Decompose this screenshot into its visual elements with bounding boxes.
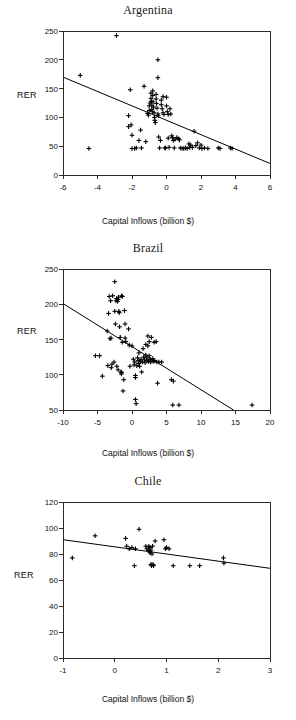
data-point-marker — [138, 128, 143, 133]
data-point-marker — [139, 370, 144, 375]
x-axis-label-chile: Capital Inflows (billion $) — [0, 694, 296, 704]
data-point-marker — [164, 104, 169, 109]
chart-panel-chile: Chile RER -10123020406080100120 Capital … — [0, 472, 296, 720]
x-tick-label: 10 — [197, 418, 206, 427]
data-point-marker — [123, 322, 128, 327]
data-point-marker — [93, 353, 98, 358]
data-point-marker — [170, 403, 175, 408]
y-tick-label: 150 — [45, 336, 59, 345]
regression-line — [63, 77, 270, 163]
data-point-marker — [126, 113, 131, 118]
data-point-marker — [165, 109, 170, 114]
data-point-marker — [134, 401, 139, 406]
data-point-marker — [117, 325, 122, 330]
data-point-marker — [132, 563, 137, 568]
x-tick-label: 0 — [164, 183, 169, 192]
scatter-plot-brazil: -10-50510152050100150200250 — [0, 240, 296, 472]
y-tick-label: 0 — [54, 171, 59, 180]
data-point-marker — [171, 563, 176, 568]
data-point-marker — [221, 556, 226, 561]
plot-box-border — [63, 269, 270, 410]
chart-panel-argentina: Argentina RER -6-4-20246050100150200250 … — [0, 0, 296, 240]
y-tick-label: 100 — [45, 524, 59, 533]
chart-panel-brazil: Brazil RER -10-50510152050100150200250 C… — [0, 240, 296, 472]
data-point-marker — [142, 84, 147, 89]
x-axis-label-argentina: Capital Inflows (billion $) — [0, 216, 296, 226]
y-tick-label: 40 — [49, 602, 58, 611]
data-point-group — [70, 527, 226, 568]
data-point-marker — [202, 146, 207, 151]
data-point-marker — [187, 563, 192, 568]
x-axis-label-brazil: Capital Inflows (billion $) — [0, 448, 296, 458]
data-point-marker — [200, 146, 205, 151]
x-tick-label: 0 — [113, 666, 118, 675]
data-point-marker — [197, 563, 202, 568]
y-tick-label: 150 — [45, 85, 59, 94]
x-tick-label: -1 — [59, 666, 67, 675]
data-point-marker — [100, 374, 105, 379]
data-point-marker — [137, 527, 142, 532]
data-point-marker — [159, 102, 164, 107]
data-point-marker — [121, 389, 126, 394]
data-point-marker — [166, 136, 171, 141]
y-tick-label: 100 — [45, 113, 59, 122]
data-point-marker — [121, 377, 126, 382]
data-point-marker — [137, 138, 142, 143]
data-point-marker — [168, 106, 173, 111]
data-point-marker — [133, 397, 138, 402]
y-tick-label: 250 — [45, 265, 59, 274]
data-point-marker — [132, 363, 137, 368]
x-tick-label: 4 — [233, 183, 238, 192]
y-tick-label: 100 — [45, 371, 59, 380]
plot-frame-argentina: -6-4-20246050100150200250 — [45, 27, 273, 192]
y-tick-label: 120 — [45, 498, 59, 507]
data-point-marker — [156, 58, 161, 63]
data-point-marker — [118, 335, 123, 340]
x-tick-label: 2 — [199, 183, 204, 192]
y-tick-label: 50 — [49, 142, 58, 151]
data-point-marker — [177, 403, 182, 408]
figure-scatterplot-panels: Argentina RER -6-4-20246050100150200250 … — [0, 0, 296, 720]
data-point-marker — [120, 294, 125, 299]
data-point-marker — [162, 537, 167, 542]
data-point-marker — [130, 133, 135, 138]
data-point-marker — [169, 112, 174, 117]
data-point-marker — [109, 336, 114, 341]
data-point-marker — [122, 308, 127, 313]
plot-frame-brazil: -10-50510152050100150200250 — [45, 265, 275, 427]
data-point-marker — [114, 33, 119, 38]
data-point-marker — [97, 353, 102, 358]
data-point-marker — [163, 146, 168, 151]
scatter-plot-argentina: -6-4-20246050100150200250 — [0, 0, 296, 240]
data-point-marker — [167, 145, 172, 150]
x-tick-label: 1 — [164, 666, 169, 675]
data-point-marker — [78, 73, 83, 78]
x-tick-label: 15 — [231, 418, 240, 427]
data-point-marker — [106, 311, 111, 316]
data-point-marker — [108, 298, 113, 303]
data-point-marker — [112, 309, 117, 314]
x-tick-label: -4 — [94, 183, 102, 192]
y-tick-label: 60 — [49, 576, 58, 585]
x-tick-label: 3 — [268, 666, 273, 675]
x-tick-label: -10 — [57, 418, 69, 427]
x-tick-label: -5 — [94, 418, 102, 427]
plot-frame-chile: -10123020406080100120 — [45, 498, 273, 675]
data-point-marker — [155, 381, 160, 386]
data-point-marker — [126, 327, 131, 332]
data-point-marker — [70, 556, 75, 561]
data-point-marker — [93, 534, 98, 539]
data-point-marker — [139, 146, 144, 151]
y-tick-label: 200 — [45, 300, 59, 309]
data-point-marker — [120, 340, 125, 345]
data-point-marker — [147, 104, 152, 109]
y-tick-label: 80 — [49, 550, 58, 559]
data-point-marker — [160, 106, 165, 111]
data-point-marker — [153, 539, 158, 544]
y-tick-label: 50 — [49, 406, 58, 415]
x-tick-label: 20 — [266, 418, 275, 427]
data-point-marker — [250, 403, 255, 408]
x-tick-label: 0 — [130, 418, 135, 427]
plot-box-border — [63, 31, 270, 175]
y-tick-label: 200 — [45, 56, 59, 65]
